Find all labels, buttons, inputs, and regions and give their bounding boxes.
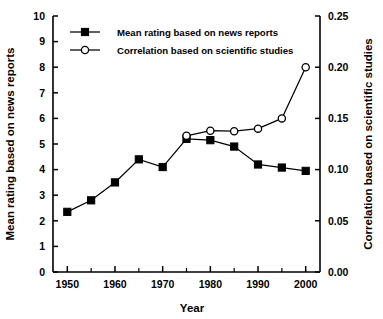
line-chart: 012345678910 0.000.050.100.150.200.25 19… (0, 0, 383, 319)
x-tick-label: 1970 (151, 278, 175, 290)
data-point-circle (207, 127, 214, 134)
left-tick-label: 4 (39, 163, 45, 175)
series-layer (64, 64, 310, 216)
x-tick-label: 1990 (246, 278, 270, 290)
left-tick-label: 7 (39, 87, 45, 99)
series-line-1 (187, 67, 306, 136)
data-point-circle (231, 128, 238, 135)
series-line-0 (67, 139, 305, 212)
left-tick-label: 3 (39, 189, 45, 201)
left-tick-label: 5 (39, 138, 45, 150)
data-point-circle (183, 132, 190, 139)
data-point-square (254, 161, 261, 168)
y-axis-title-right: Correlation based on scientific studies (362, 38, 374, 250)
data-point-square (111, 179, 118, 186)
left-tick-label: 8 (39, 61, 45, 73)
y-axis-title-left: Mean rating based on news reports (4, 48, 16, 241)
left-axis-ticks: 012345678910 (33, 10, 58, 278)
legend-label-0: Mean rating based on news reports (117, 27, 278, 38)
x-tick-label: 2000 (294, 278, 318, 290)
data-point-square (207, 137, 214, 144)
left-tick-label: 9 (39, 35, 45, 47)
chart-legend: Mean rating based on news reportsCorrela… (70, 27, 293, 56)
x-tick-label: 1960 (103, 278, 127, 290)
data-point-square (88, 197, 95, 204)
left-tick-label: 2 (39, 215, 45, 227)
right-tick-label: 0.10 (328, 163, 349, 175)
data-point-square (159, 163, 166, 170)
left-tick-label: 6 (39, 112, 45, 124)
data-point-square (278, 164, 285, 171)
legend-label-1: Correlation based on scientific studies (117, 45, 293, 56)
data-point-square (64, 208, 71, 215)
data-point-square (302, 167, 309, 174)
right-tick-label: 0.15 (328, 112, 349, 124)
right-tick-label: 0.00 (328, 266, 349, 278)
legend-marker-circle (81, 46, 88, 53)
left-tick-label: 10 (33, 10, 45, 22)
data-point-circle (254, 125, 261, 132)
x-tick-label: 1980 (199, 278, 223, 290)
left-tick-label: 1 (39, 240, 45, 252)
right-tick-label: 0.05 (328, 215, 349, 227)
x-axis-title: Year (180, 302, 205, 314)
data-point-circle (302, 64, 309, 71)
left-tick-label: 0 (39, 266, 45, 278)
x-axis-ticks: 195019601970198019902000 (56, 266, 318, 290)
chart-figure: 012345678910 0.000.050.100.150.200.25 19… (0, 0, 383, 319)
right-tick-label: 0.25 (328, 10, 349, 22)
data-point-square (231, 143, 238, 150)
right-tick-label: 0.20 (328, 61, 349, 73)
data-point-square (135, 156, 142, 163)
data-point-circle (278, 115, 285, 122)
x-tick-label: 1950 (56, 278, 80, 290)
legend-marker-square (81, 28, 88, 35)
